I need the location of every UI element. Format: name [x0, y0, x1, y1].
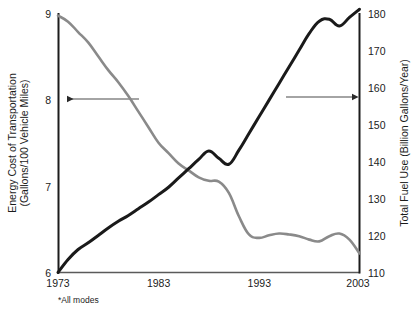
right-axis-tick-130: 130 [368, 193, 386, 205]
plot-area-background [58, 13, 360, 273]
left-axis-title-line1: Energy Cost of Transportation [6, 73, 18, 213]
chart-container: 9 8 7 6 180 170 160 150 140 130 120 110 … [0, 0, 419, 316]
x-axis-tick-2003: 2003 [346, 277, 370, 289]
left-axis-title-line2: (Gallons/100 Vehicle Miles) [18, 79, 30, 206]
x-axis-tick-1983: 1983 [147, 277, 171, 289]
left-axis-tick-9: 9 [45, 8, 51, 20]
energy-cost-vs-fuel-use-chart: 9 8 7 6 180 170 160 150 140 130 120 110 … [0, 0, 419, 316]
x-axis-tick-1973: 1973 [46, 277, 70, 289]
left-axis-tick-8: 8 [45, 94, 51, 106]
right-axis-tick-140: 140 [368, 156, 386, 168]
right-axis-tick-160: 160 [368, 82, 386, 94]
right-axis-tick-110: 110 [368, 267, 385, 279]
x-axis-tick-1993: 1993 [248, 277, 272, 289]
right-axis-tick-150: 150 [368, 119, 386, 131]
right-axis-tick-180: 180 [368, 8, 386, 20]
footnote-all-modes: *All modes [58, 295, 99, 305]
left-axis-tick-7: 7 [45, 181, 51, 193]
right-axis-tick-120: 120 [368, 230, 386, 242]
right-axis-tick-170: 170 [368, 45, 386, 57]
right-axis-title: Total Fuel Use (Billion Gallons/Year) [398, 59, 410, 227]
